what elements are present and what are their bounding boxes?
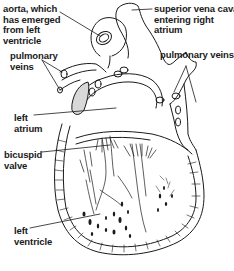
label-left-ventricle: left ventricle xyxy=(14,226,52,247)
label-superior-vena-cava: superior vena cava entering right atrium xyxy=(154,4,234,36)
label-aorta: aorta, which has emerged from left ventr… xyxy=(3,4,61,46)
bicuspid-valve-leader xyxy=(42,145,110,152)
label-bicuspid-valve: bicuspid valve xyxy=(4,150,42,171)
label-left-atrium: left atrium xyxy=(14,113,42,134)
label-pulmonary-veins-left: pulmonary veins xyxy=(10,51,58,72)
label-pulmonary-veins-right: pulmonary veins xyxy=(160,50,234,61)
aorta-leader xyxy=(60,12,100,36)
heart-diagram: aorta, which has emerged from left ventr… xyxy=(0,0,234,271)
superior-vena-cava-leader xyxy=(132,9,152,10)
pulmonary-veins-right-leader-2 xyxy=(186,66,196,102)
pulmonary-vein-left-shape xyxy=(60,63,106,72)
